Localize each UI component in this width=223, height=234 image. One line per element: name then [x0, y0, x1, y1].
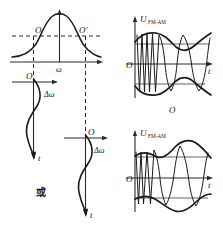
- deviation-right-delta-omega-label: Δω: [93, 146, 105, 155]
- deviation-left-delta-omega-label: Δω: [43, 90, 55, 99]
- waveform-top-time-label: t: [208, 66, 211, 76]
- resonance-bell-curve: [12, 14, 101, 58]
- resonance-omega-axis-label: ω: [56, 65, 62, 74]
- resonance-curve-panel: O O′ ω: [10, 9, 103, 138]
- deviation-left-time-label: t: [38, 153, 41, 163]
- waveform-bottom-y-axis-subscript: FM-AM: [148, 133, 166, 139]
- operating-point-left-label: O: [35, 25, 42, 35]
- frequency-deviation-panel-right: O Δω t: [64, 127, 108, 220]
- deviation-right-horizontal-axis-arrow: [102, 136, 108, 140]
- fm-am-waveform-top: U FM-AM O t O: [126, 14, 213, 115]
- deviation-left-horizontal-axis-arrow: [52, 80, 58, 84]
- waveform-top-y-axis-label: U: [140, 14, 147, 24]
- deviation-right-origin-label: O: [88, 127, 95, 137]
- waveform-bottom-origin-label: O: [126, 174, 133, 184]
- fm-am-waveform-bottom: U FM-AM O t: [126, 128, 213, 212]
- resonance-horizontal-axis-arrow: [97, 60, 103, 64]
- waveform-top-origin-label: O: [126, 60, 133, 70]
- figure-canvas: O O′ ω O Δω t 或 O Δω t: [0, 0, 223, 234]
- deviation-right-time-label: t: [90, 210, 93, 220]
- operating-point-right-label: O′: [79, 25, 88, 35]
- frequency-deviation-panel-left: O Δω t: [12, 71, 58, 163]
- waveform-bottom-time-label: t: [208, 180, 211, 190]
- waveform-top-y-axis-subscript: FM-AM: [148, 19, 166, 25]
- deviation-left-origin-label: O: [26, 71, 33, 81]
- waveform-bottom-vertical-axis-arrow: [133, 130, 137, 136]
- waveform-bottom-y-axis-label: U: [140, 128, 147, 138]
- waveform-top-caption-label: O: [169, 105, 176, 115]
- waveform-top-vertical-axis-arrow: [133, 16, 137, 22]
- or-connector-label: 或: [36, 186, 46, 198]
